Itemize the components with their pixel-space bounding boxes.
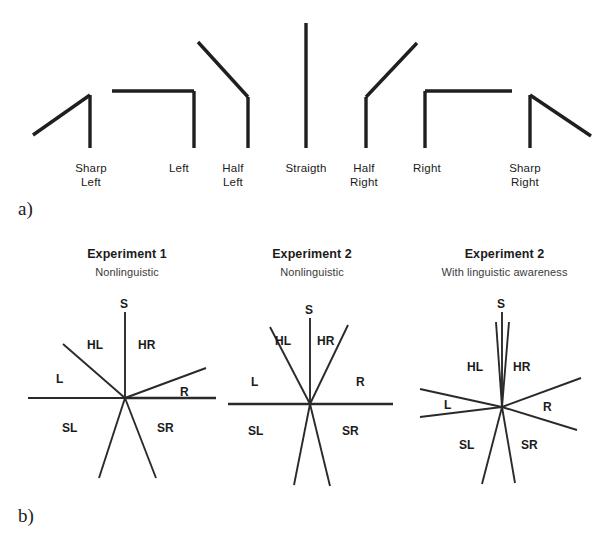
ray-experiment-2-with-linguistic-awareness-SR xyxy=(502,407,515,483)
sector-label-experiment-2-nonlinguistic-SR: SR xyxy=(342,424,359,438)
sector-label-experiment-2-nonlinguistic-L: L xyxy=(251,375,258,389)
sector-label-experiment-1-nonlinguistic-SR: SR xyxy=(157,421,174,435)
ray-experiment-2-with-linguistic-awareness-HR xyxy=(502,322,509,407)
panel-letter-b: b) xyxy=(18,505,34,527)
ray-experiment-2-nonlinguistic-SR xyxy=(310,404,330,486)
sector-label-experiment-2-with-linguistic-awareness-SL: SL xyxy=(459,438,474,452)
ray-experiment-1-nonlinguistic-R xyxy=(125,368,206,398)
sector-label-experiment-2-nonlinguistic-SL: SL xyxy=(248,424,263,438)
sector-label-experiment-2-nonlinguistic-S: S xyxy=(305,303,313,317)
ray-experiment-1-nonlinguistic-SL xyxy=(99,398,125,478)
sector-label-experiment-1-nonlinguistic-L: L xyxy=(56,372,63,386)
sector-label-experiment-2-with-linguistic-awareness-R: R xyxy=(543,400,552,414)
diagram-title-experiment-1-nonlinguistic: Experiment 1 xyxy=(52,247,202,261)
panel-b-diagrams xyxy=(0,0,612,558)
ray-experiment-2-with-linguistic-awareness-SL xyxy=(482,407,502,484)
ray-experiment-2-with-linguistic-awareness-L-upper xyxy=(420,389,502,407)
sector-label-experiment-1-nonlinguistic-SL: SL xyxy=(62,421,77,435)
sector-label-experiment-2-nonlinguistic-HL: HL xyxy=(275,334,291,348)
sector-label-experiment-1-nonlinguistic-HR: HR xyxy=(138,338,155,352)
sector-label-experiment-2-with-linguistic-awareness-S: S xyxy=(497,297,505,311)
diagram-title-experiment-2-with-linguistic-awareness: Experiment 2 xyxy=(412,247,597,261)
ray-experiment-1-nonlinguistic-HL xyxy=(63,344,125,398)
diagram-title-experiment-2-nonlinguistic: Experiment 2 xyxy=(237,247,387,261)
sector-label-experiment-1-nonlinguistic-R: R xyxy=(180,385,189,399)
sector-label-experiment-2-nonlinguistic-HR: HR xyxy=(317,334,334,348)
sector-label-experiment-2-with-linguistic-awareness-HL: HL xyxy=(467,360,483,374)
diagram-stroke-group xyxy=(28,312,581,486)
sector-label-experiment-2-with-linguistic-awareness-SR: SR xyxy=(521,438,538,452)
diagram-subtitle-experiment-2-with-linguistic-awareness: With linguistic awareness xyxy=(412,266,597,278)
ray-experiment-2-with-linguistic-awareness-L-lower xyxy=(420,407,502,417)
figure-container: Sharp LeftLeftHalf LeftStraigthHalf Righ… xyxy=(0,0,612,558)
sector-label-experiment-2-with-linguistic-awareness-HR: HR xyxy=(513,360,530,374)
diagram-subtitle-experiment-2-nonlinguistic: Nonlinguistic xyxy=(237,266,387,278)
ray-experiment-2-with-linguistic-awareness-R-lower xyxy=(502,407,577,430)
diagram-subtitle-experiment-1-nonlinguistic: Nonlinguistic xyxy=(52,266,202,278)
sector-label-experiment-1-nonlinguistic-S: S xyxy=(120,297,128,311)
sector-label-experiment-2-with-linguistic-awareness-L: L xyxy=(444,398,451,412)
sector-label-experiment-1-nonlinguistic-HL: HL xyxy=(87,338,103,352)
ray-experiment-2-with-linguistic-awareness-R xyxy=(502,378,581,407)
ray-experiment-1-nonlinguistic-SR xyxy=(125,398,156,478)
sector-label-experiment-2-nonlinguistic-R: R xyxy=(356,375,365,389)
ray-experiment-2-nonlinguistic-SL xyxy=(294,404,310,485)
